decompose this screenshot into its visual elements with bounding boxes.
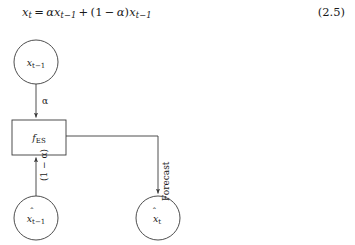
equation-rhs-second-subscript: t−1 <box>136 10 152 20</box>
edge-forecast: Forecast <box>66 136 171 201</box>
node-current-forecast-label-sub: t <box>158 218 161 226</box>
node-observation-label-sub: t−1 <box>32 62 45 70</box>
flow-diagram: α (1 − α) Forecast xt−1 fES <box>0 26 355 245</box>
edge-label-alpha: α <box>42 96 48 106</box>
node-es-function-label: fES <box>31 132 46 145</box>
equation-plus: + <box>76 5 90 19</box>
equation-rhs-first-base: x <box>54 5 61 19</box>
equation-rhs-first-subscript: t−1 <box>61 10 77 20</box>
edge-label-one-minus-alpha: (1 − α) <box>39 149 49 181</box>
edge-one-minus-alpha: (1 − α) <box>36 149 49 196</box>
node-current-forecast[interactable]: xt ˆ <box>136 196 180 240</box>
node-previous-forecast[interactable]: xt−1 ˆ <box>14 196 58 240</box>
node-es-function-label-sub: ES <box>36 137 46 145</box>
equation-rhs-second-base: x <box>129 2 136 22</box>
edge-alpha: α <box>36 84 48 118</box>
equation-alpha-1: α <box>46 5 54 19</box>
equation-row: xt=αxt−1+(1−α)xt−1 (2.5) <box>0 2 355 24</box>
node-previous-forecast-hat: ˆ <box>30 206 35 217</box>
equation-equals: = <box>32 5 46 19</box>
node-previous-forecast-label-sub: t−1 <box>32 218 45 226</box>
node-current-forecast-hat: ˆ <box>152 206 157 217</box>
equation-expression: xt=αxt−1+(1−α)xt−1 <box>22 2 152 25</box>
equation-number: (2.5) <box>318 2 345 22</box>
equation-alpha-2: α <box>117 5 125 19</box>
equation-one: 1 <box>95 5 102 19</box>
node-observation[interactable]: xt−1 <box>14 40 58 84</box>
equation-lhs-base: x <box>22 2 29 22</box>
equation-minus: − <box>103 5 117 19</box>
node-observation-label: xt−1 <box>27 57 46 70</box>
edge-label-forecast: Forecast <box>161 161 171 201</box>
